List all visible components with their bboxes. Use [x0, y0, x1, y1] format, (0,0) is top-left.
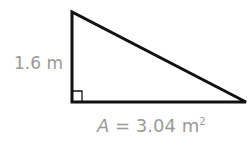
height-label: 1.6 m [14, 53, 63, 73]
area-value: = 3.04 m [109, 115, 199, 136]
area-exponent: 2 [199, 116, 205, 127]
right-triangle [72, 12, 246, 102]
area-label: A = 3.04 m2 [97, 115, 206, 136]
area-variable: A [97, 115, 109, 136]
